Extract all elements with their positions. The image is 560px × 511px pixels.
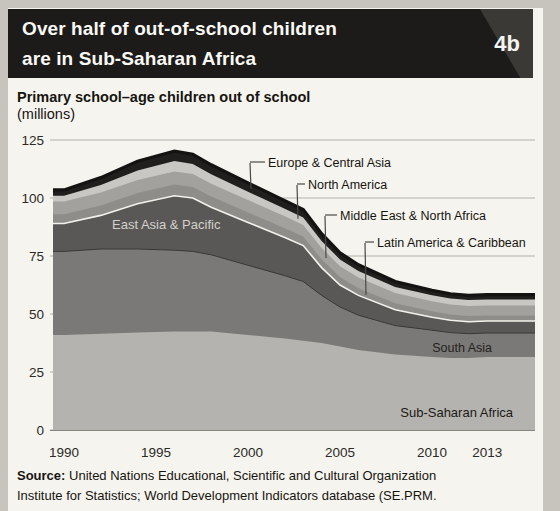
- annotation-label: North America: [308, 178, 387, 192]
- x-tick-label: 1990: [49, 445, 79, 460]
- region-label: Sub-Saharan Africa: [400, 405, 514, 420]
- source-line2: Institute for Statistics; World Developm…: [17, 488, 437, 503]
- source-label: Source:: [17, 468, 65, 483]
- figure-page: Over half of out-of-school children are …: [0, 0, 560, 511]
- annotation-label: Middle East & North Africa: [340, 209, 486, 223]
- source-line1: United Nations Educational, Scientific a…: [65, 468, 436, 483]
- region-label: East Asia & Pacific: [112, 217, 221, 232]
- x-tick-label: 2010: [417, 445, 447, 460]
- annotation-label: Europe & Central Asia: [268, 156, 391, 170]
- y-tick-label: 25: [29, 365, 44, 380]
- y-tick-label: 125: [21, 133, 44, 148]
- y-tick-label: 100: [21, 191, 44, 206]
- region-label: South Asia: [432, 341, 492, 355]
- x-tick-label: 2013: [472, 445, 502, 460]
- stacked-area-chart: 0255075100125199019952000200520102013Eas…: [0, 0, 560, 511]
- y-tick-label: 0: [36, 423, 44, 438]
- x-tick-label: 1995: [141, 445, 171, 460]
- x-tick-label: 2000: [233, 445, 263, 460]
- annotation-label: Latin America & Caribbean: [377, 236, 526, 250]
- x-tick-label: 2005: [325, 445, 355, 460]
- y-tick-label: 50: [29, 307, 44, 322]
- source-note: Source: United Nations Educational, Scie…: [17, 466, 539, 505]
- y-tick-label: 75: [29, 249, 44, 264]
